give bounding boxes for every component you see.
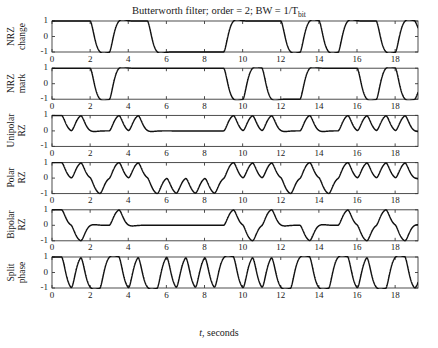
x-axis-label-units: , seconds bbox=[202, 327, 239, 338]
x-tick-label: 2 bbox=[82, 290, 98, 300]
x-tick-label: 16 bbox=[349, 290, 365, 300]
figure-canvas: Butterworth filter; order = 2; BW = 1/Tb… bbox=[0, 0, 438, 348]
x-axis-label: t, seconds bbox=[0, 327, 438, 338]
x-tick-label: 6 bbox=[158, 290, 174, 300]
subplot-split-phase bbox=[0, 0, 438, 348]
x-tick-label: 14 bbox=[311, 290, 327, 300]
waveform-trace-split-phase bbox=[52, 256, 418, 290]
x-tick-label: 4 bbox=[120, 290, 136, 300]
x-tick-label: 10 bbox=[235, 290, 251, 300]
x-tick-label: 12 bbox=[273, 290, 289, 300]
x-tick-label: 8 bbox=[197, 290, 213, 300]
x-tick-label: 18 bbox=[387, 290, 403, 300]
x-tick-label: 0 bbox=[44, 290, 60, 300]
